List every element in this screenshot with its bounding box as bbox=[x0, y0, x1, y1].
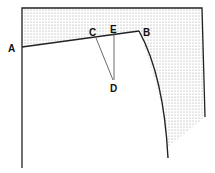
label-b: B bbox=[143, 27, 150, 38]
label-e: E bbox=[110, 24, 117, 35]
line-c-d bbox=[96, 38, 113, 80]
label-c: C bbox=[89, 27, 96, 38]
label-a: A bbox=[8, 43, 15, 54]
label-d: D bbox=[110, 83, 117, 94]
pattern-diagram: A B C D E bbox=[0, 0, 215, 173]
